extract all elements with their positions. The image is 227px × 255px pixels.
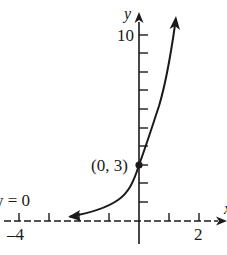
y-tick-label-10: 10 <box>117 26 134 45</box>
x-tick-label-neg4: –4 <box>6 225 25 244</box>
x-axis-label: x <box>223 200 227 217</box>
x-axis-ticks <box>19 213 199 221</box>
point-marker <box>135 161 142 168</box>
y-axis-arrow-icon <box>135 12 144 23</box>
y-axis-label: y <box>122 5 132 23</box>
y-axis-ticks <box>139 35 148 202</box>
exponential-graph: –4 2 10 y x (0, 3) y = 0 <box>0 0 227 255</box>
exponential-curve <box>70 25 175 217</box>
x-tick-label-2: 2 <box>194 225 203 244</box>
point-label: (0, 3) <box>91 156 128 175</box>
x-axis: –4 2 <box>4 213 227 244</box>
asymptote-label: y = 0 <box>0 191 30 210</box>
